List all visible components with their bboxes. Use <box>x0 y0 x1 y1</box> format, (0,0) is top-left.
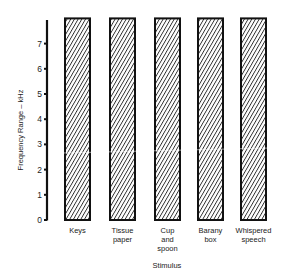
y-tick-label: 5 <box>37 89 42 99</box>
frequency-range-chart: 01234567 KeysTissuepaperCupandspoonBaran… <box>0 0 294 274</box>
bar-tissue-paper <box>110 18 135 220</box>
x-axis-labels: KeysTissuepaperCupandspoonBaranyboxWhisp… <box>69 226 271 253</box>
x-category-label: Tissuepaper <box>112 226 134 244</box>
y-tick-label: 0 <box>37 215 42 225</box>
bar-barany-box <box>198 18 223 220</box>
y-tick-label: 1 <box>37 190 42 200</box>
y-axis: 01234567 <box>37 20 47 225</box>
bars <box>65 18 266 220</box>
x-category-label: Baranybox <box>199 226 223 244</box>
y-tick-label: 6 <box>37 64 42 74</box>
bar-whispered-speech <box>241 18 266 220</box>
x-category-label: Keys <box>69 226 86 235</box>
x-axis-title: Stimulus <box>153 261 182 270</box>
y-tick-label: 4 <box>37 114 42 124</box>
x-category-label: Whisperedspeech <box>236 226 272 244</box>
y-tick-label: 3 <box>37 139 42 149</box>
y-tick-label: 7 <box>37 39 42 49</box>
x-category-label: Cupandspoon <box>157 226 177 253</box>
y-tick-label: 2 <box>37 165 42 175</box>
y-axis-title: Frequency Range – kHz <box>16 89 25 170</box>
bar-keys <box>65 18 90 220</box>
bar-cup-and-spoon <box>155 18 180 220</box>
